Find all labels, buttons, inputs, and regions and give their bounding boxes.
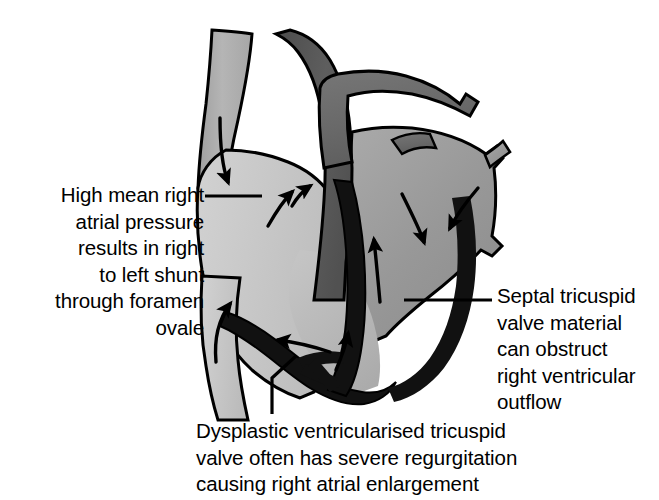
- annotation-high-mean-right-atrial-pressure: High mean right atrial pressure results …: [8, 182, 204, 341]
- left-heart-region: [348, 127, 511, 342]
- annotation-dysplastic-ventricularised-tricuspid-valve: Dysplastic ventricularised tricuspid val…: [196, 418, 586, 498]
- annotation-septal-tricuspid-valve-material: Septal tricuspid valve material can obst…: [497, 283, 657, 416]
- left-atrium-ventricle-body: [348, 127, 504, 342]
